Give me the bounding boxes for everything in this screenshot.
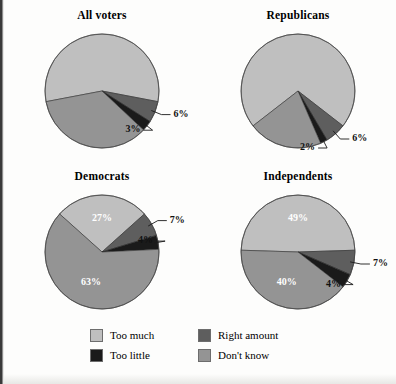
pie-chart-independents: Independents 49%7%4%40% — [200, 169, 396, 330]
legend-label: Too much — [110, 329, 154, 342]
pie-chart-all-voters: All voters 6%3% — [4, 8, 200, 169]
legend-label: Too little — [110, 349, 150, 362]
slice-value-label: 40% — [277, 276, 297, 287]
legend-item-too-much: Too much — [90, 326, 198, 344]
legend-swatch-icon — [198, 349, 211, 362]
pie-svg: 49%7%4%40% — [200, 169, 396, 330]
pie-svg: 6%3% — [4, 8, 200, 169]
legend-swatch-icon — [90, 349, 103, 362]
legend-items: Too much Right amount Too little Don't k… — [90, 326, 340, 364]
scan-bottom-artifact — [4, 374, 396, 384]
pie-chart-democrats: Democrats 27%7%4%63% — [4, 169, 200, 330]
pie-chart-republicans: Republicans 6%2% — [200, 8, 396, 169]
slice-value-label: 49% — [288, 212, 308, 223]
slice-value-label: 27% — [92, 212, 112, 223]
legend-label: Don't know — [218, 349, 269, 362]
pie-svg: 27%7%4%63% — [4, 169, 200, 330]
pie-slice — [241, 195, 355, 252]
slice-callout-label: 6% — [352, 132, 367, 143]
legend-item-right-amount: Right amount — [198, 326, 340, 344]
legend-item-too-little: Too little — [90, 346, 198, 364]
slice-callout-label: 4% — [326, 278, 341, 289]
slice-value-label: 63% — [81, 276, 101, 287]
chart-legend: Too much Right amount Too little Don't k… — [4, 326, 396, 370]
slice-callout-label: 4% — [138, 234, 153, 245]
figure-page: All voters 6%3% Republicans 6%2% Democra… — [0, 0, 396, 384]
slice-callout-label: 7% — [373, 257, 388, 268]
slice-callout-label: 2% — [300, 141, 315, 152]
slice-callout-label: 7% — [170, 214, 185, 225]
slice-callout-label: 3% — [126, 123, 141, 134]
slice-callout-label: 6% — [174, 108, 189, 119]
legend-item-dont-know: Don't know — [198, 346, 340, 364]
legend-swatch-icon — [198, 329, 211, 342]
legend-label: Right amount — [218, 329, 278, 342]
pie-svg: 6%2% — [200, 8, 396, 169]
pie-chart-grid: All voters 6%3% Republicans 6%2% Democra… — [4, 0, 396, 322]
legend-swatch-icon — [90, 329, 103, 342]
